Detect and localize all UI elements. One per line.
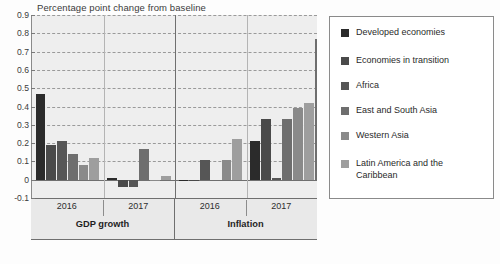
bar <box>315 39 318 180</box>
y-axis-tick <box>31 33 35 34</box>
y-axis-tick-label: 0.4 <box>3 102 29 112</box>
y-axis-tick-label: 0.9 <box>3 10 29 20</box>
x-axis-year-label: 2016 <box>174 201 246 211</box>
bar <box>304 103 314 180</box>
bar <box>57 141 67 179</box>
bar <box>250 141 260 179</box>
legend-swatch-icon <box>341 132 349 140</box>
y-axis-tick-label: 0.5 <box>3 83 29 93</box>
y-axis-tick <box>31 143 35 144</box>
y-axis-tick-label: 0.6 <box>3 65 29 75</box>
group-divider <box>104 15 105 198</box>
bar <box>179 180 189 181</box>
x-axis-band: 2016201720162017GDP growthInflation <box>31 198 317 240</box>
legend-item-label: East and South Asia <box>356 105 437 117</box>
x-axis-category-label: GDP growth <box>31 219 174 229</box>
legend-swatch-icon <box>341 29 349 37</box>
legend-item-label: Developed economies <box>356 27 445 39</box>
legend-item[interactable]: Western Asia <box>341 130 409 142</box>
bar <box>46 145 56 180</box>
group-divider <box>247 15 248 198</box>
bar <box>293 108 303 179</box>
bar <box>161 176 171 180</box>
y-axis-tick-label: 0 <box>3 175 29 185</box>
legend-item-label: Western Asia <box>356 130 409 142</box>
legend-swatch-icon <box>341 160 349 168</box>
bar <box>79 165 89 180</box>
x-axis-year-divider <box>103 200 104 216</box>
legend-item-label: Economies in transition <box>356 55 449 67</box>
bar <box>189 180 199 181</box>
x-axis-year-label: 2016 <box>31 201 103 211</box>
legend-item[interactable]: Developed economies <box>341 27 445 39</box>
y-axis-tick <box>31 15 35 16</box>
y-axis-tick-label: 0.7 <box>3 47 29 57</box>
x-axis-year-divider <box>246 200 247 216</box>
y-axis-tick <box>31 107 35 108</box>
chart-figure: Percentage point change from baseline 0.… <box>0 0 500 264</box>
bar <box>36 94 46 180</box>
bar <box>150 180 160 181</box>
y-axis-tick <box>31 125 35 126</box>
legend-item[interactable]: Latin America and the Caribbean <box>341 158 443 181</box>
bar <box>211 180 221 181</box>
chart-legend: Developed economiesEconomies in transiti… <box>329 16 494 199</box>
y-axis-tick <box>31 88 35 89</box>
legend-item-label: Latin America and the Caribbean <box>356 158 443 181</box>
legend-swatch-icon <box>341 107 349 115</box>
category-divider <box>175 15 176 198</box>
plot-area <box>31 15 317 198</box>
y-axis-tick <box>31 70 35 71</box>
y-axis-tick <box>31 198 35 199</box>
y-axis: 0.90.80.70.60.50.40.30.20.10-0.1 <box>0 15 29 198</box>
legend-swatch-icon <box>341 57 349 65</box>
bar <box>107 178 117 180</box>
bar <box>282 119 292 179</box>
y-axis-tick <box>31 180 35 181</box>
bar <box>232 139 242 179</box>
x-axis-year-label: 2017 <box>246 201 318 211</box>
y-axis-tick <box>31 161 35 162</box>
bar <box>200 160 210 180</box>
y-axis-tick-label: -0.1 <box>3 193 29 203</box>
chart-title: Percentage point change from baseline <box>37 2 206 13</box>
bar <box>139 149 149 180</box>
bar <box>261 119 271 179</box>
bar <box>118 180 128 187</box>
bar <box>89 158 99 180</box>
y-axis-tick-label: 0.2 <box>3 138 29 148</box>
y-axis-tick-label: 0.3 <box>3 120 29 130</box>
bar <box>68 154 78 180</box>
legend-item[interactable]: Economies in transition <box>341 55 449 67</box>
bar <box>222 160 232 180</box>
x-axis-year-label: 2017 <box>103 201 175 211</box>
x-axis-category-label: Inflation <box>174 219 317 229</box>
bar <box>272 178 282 180</box>
y-axis-tick-label: 0.8 <box>3 28 29 38</box>
y-axis-tick-label: 0.1 <box>3 156 29 166</box>
legend-item[interactable]: Africa <box>341 80 379 92</box>
y-axis-tick <box>31 52 35 53</box>
legend-item-label: Africa <box>356 80 379 92</box>
bar <box>129 180 139 187</box>
legend-swatch-icon <box>341 82 349 90</box>
legend-item[interactable]: East and South Asia <box>341 105 437 117</box>
